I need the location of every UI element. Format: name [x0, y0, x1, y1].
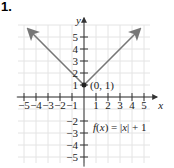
x-tick-label: 4	[129, 99, 135, 111]
function-graph: −5−4−3−2−112345−5−4−3−212345xy (0, 1)f(x…	[0, 0, 174, 168]
y-tick-label: −3	[66, 127, 78, 139]
x-axis-label: x	[157, 99, 163, 111]
x-tick-label: −3	[42, 99, 54, 111]
y-tick-label: 1	[73, 79, 79, 91]
y-tick-label: −2	[66, 115, 78, 127]
x-tick-label: 1	[93, 99, 99, 111]
graph-right-ray	[84, 30, 139, 85]
axes	[17, 18, 157, 167]
annotations: (0, 1)f(x) = |x| + 1	[82, 79, 147, 134]
vertex-point	[82, 83, 87, 88]
x-tick-label: 5	[141, 99, 147, 111]
x-tick-label: 2	[105, 99, 111, 111]
x-tick-label: 3	[117, 99, 123, 111]
function-label: f(x) = |x| + 1	[93, 121, 147, 134]
y-axis-label: y	[75, 14, 81, 26]
x-tick-label: −1	[66, 99, 78, 111]
x-tick-label: −4	[30, 99, 42, 111]
y-tick-label: 5	[73, 31, 79, 43]
y-tick-label: −4	[66, 139, 78, 151]
x-tick-label: −5	[18, 99, 30, 111]
y-tick-label: −5	[66, 151, 78, 163]
y-tick-label: 2	[73, 67, 79, 79]
y-tick-label: 4	[73, 43, 79, 55]
vertex-label: (0, 1)	[90, 79, 114, 92]
y-tick-label: 3	[73, 55, 79, 67]
x-tick-label: −2	[54, 99, 66, 111]
